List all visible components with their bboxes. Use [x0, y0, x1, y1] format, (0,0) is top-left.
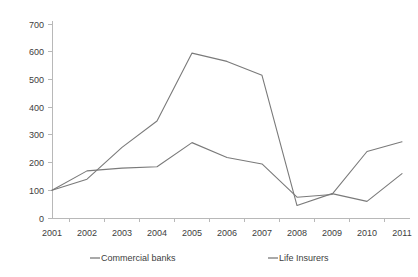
x-tick-label: 2006	[217, 228, 237, 238]
y-tick-label: 100	[29, 186, 44, 196]
series-line	[52, 142, 402, 197]
y-axis-tick-marks	[48, 24, 52, 218]
x-axis-tick-marks	[70, 218, 385, 222]
x-tick-label: 2003	[112, 228, 132, 238]
x-tick-label: 2010	[357, 228, 377, 238]
chart-legend: Commercial banksLife Insurers	[90, 253, 329, 263]
x-tick-label: 2011	[392, 228, 411, 238]
x-tick-label: 2001	[42, 228, 62, 238]
y-tick-label: 400	[29, 103, 44, 113]
y-tick-label: 500	[29, 75, 44, 85]
chart-canvas: 0100200300400500600700 20012002200320042…	[0, 0, 418, 277]
x-axis-tick-labels: 2001200220032004200520062007200820092010…	[42, 228, 412, 238]
y-tick-label: 600	[29, 47, 44, 57]
y-axis-tick-labels: 0100200300400500600700	[29, 20, 44, 224]
y-tick-label: 300	[29, 130, 44, 140]
x-tick-label: 2002	[77, 228, 97, 238]
legend-label: Life Insurers	[279, 253, 329, 263]
x-tick-label: 2004	[147, 228, 167, 238]
x-tick-label: 2005	[182, 228, 202, 238]
y-tick-label: 700	[29, 20, 44, 30]
x-tick-label: 2009	[322, 228, 342, 238]
y-tick-label: 200	[29, 158, 44, 168]
y-tick-label: 0	[39, 214, 44, 224]
line-chart: 0100200300400500600700 20012002200320042…	[0, 0, 418, 277]
legend-label: Commercial banks	[101, 253, 176, 263]
series-line	[52, 53, 402, 205]
x-tick-label: 2007	[252, 228, 272, 238]
x-tick-label: 2008	[287, 228, 307, 238]
data-series-group	[52, 53, 402, 205]
